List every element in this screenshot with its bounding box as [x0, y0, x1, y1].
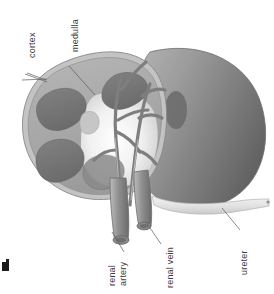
leader-renal-vein [146, 222, 161, 244]
label-renal-vein: renal vein [165, 247, 175, 288]
corner-artifact [2, 262, 9, 271]
calyx-opening [165, 91, 187, 129]
renal-artery-vessel [110, 178, 129, 244]
renal-column [80, 111, 99, 134]
label-cortex: cortex [27, 32, 37, 58]
label-renal-artery-line1: renal [107, 265, 118, 286]
kidney-diagram: cortex medulla renal artery renal vein u… [0, 0, 274, 294]
label-renal-artery-line2: artery [118, 262, 129, 286]
label-medulla: medulla [70, 19, 80, 52]
kidney-illustration [0, 0, 274, 294]
renal-vein-vessel [134, 170, 152, 230]
label-ureter: ureter [239, 250, 249, 275]
